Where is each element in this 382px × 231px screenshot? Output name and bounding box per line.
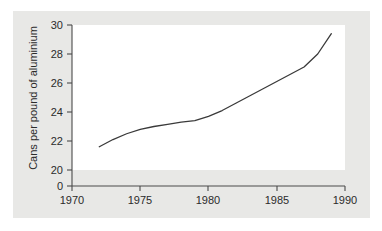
y-axis: 30 28 26 24 22 20 0 Cans per pound of al… — [27, 19, 72, 192]
x-tick-label-1985: 1985 — [265, 194, 289, 206]
x-tick-label-1970: 1970 — [60, 194, 84, 206]
y-tick-label-24: 24 — [51, 106, 63, 118]
y-tick-label-30: 30 — [51, 19, 63, 31]
y-tick-label-22: 22 — [51, 135, 63, 147]
x-tick-label-1975: 1975 — [128, 194, 152, 206]
y-axis-title: Cans per pound of aluminium — [27, 26, 39, 170]
line-chart: 30 28 26 24 22 20 0 Cans per pound of al… — [0, 0, 382, 231]
y-tick-label-0: 0 — [57, 180, 63, 192]
x-tick-label-1990: 1990 — [333, 194, 357, 206]
y-tick-label-26: 26 — [51, 77, 63, 89]
x-axis: 1970 1975 1980 1985 1990 — [60, 186, 357, 206]
x-tick-label-1980: 1980 — [196, 194, 220, 206]
plot-area-background — [72, 25, 345, 170]
y-tick-label-20: 20 — [51, 164, 63, 176]
y-tick-label-28: 28 — [51, 48, 63, 60]
chart-figure: 30 28 26 24 22 20 0 Cans per pound of al… — [0, 0, 382, 231]
